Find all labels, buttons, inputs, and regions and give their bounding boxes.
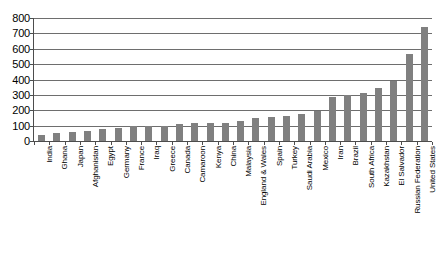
y-axis-tick-labels: 0100200300400500600700800 xyxy=(0,14,30,142)
bar[interactable] xyxy=(298,114,305,141)
x-axis-tick-label: Egypt xyxy=(106,146,115,166)
bar[interactable] xyxy=(207,123,214,141)
bar[interactable] xyxy=(115,128,122,141)
y-axis-tick-label: 500 xyxy=(0,59,30,70)
x-axis-tick-label: Canada xyxy=(183,146,192,173)
x-axis-tick-label: Ghana xyxy=(60,146,69,170)
x-axis-tick-mark xyxy=(355,142,356,145)
bars-series xyxy=(34,18,432,141)
x-axis-tick-mark xyxy=(156,142,157,145)
y-axis-tick-label: 300 xyxy=(0,89,30,100)
bar[interactable] xyxy=(406,54,413,141)
x-axis-tick-mark xyxy=(294,142,295,145)
x-axis-tick-mark xyxy=(432,142,433,145)
x-axis-tick-mark xyxy=(417,142,418,145)
bar[interactable] xyxy=(130,126,137,141)
x-axis-tick-mark xyxy=(340,142,341,145)
bar[interactable] xyxy=(99,129,106,141)
x-axis-tick-mark xyxy=(111,142,112,145)
y-axis-tick-label: 700 xyxy=(0,28,30,39)
x-axis-tick-mark xyxy=(49,142,50,145)
bar[interactable] xyxy=(222,123,229,141)
y-axis-tick-mark xyxy=(30,95,34,96)
x-axis-tick-label: Malaysia xyxy=(244,146,253,177)
x-axis-tick-mark xyxy=(279,142,280,145)
x-axis-tick-label: Kenya xyxy=(214,146,223,168)
x-axis-tick-mark xyxy=(202,142,203,145)
y-axis-tick-label: 400 xyxy=(0,74,30,85)
x-axis-tick-label: United States xyxy=(428,146,437,193)
bar[interactable] xyxy=(145,126,152,141)
x-axis-tick-labels: IndiaGhanaJapanAfghanistanEgyptGermanyFr… xyxy=(34,146,432,258)
x-axis-tick-label: Turkey xyxy=(290,146,299,170)
x-axis-tick-mark xyxy=(172,142,173,145)
y-axis-tick-label: 0 xyxy=(0,136,30,147)
bar[interactable] xyxy=(344,95,351,141)
bar[interactable] xyxy=(375,88,382,141)
x-axis-tick-label: France xyxy=(137,146,146,170)
bar[interactable] xyxy=(176,124,183,141)
x-axis-tick-label: Brazil xyxy=(351,146,360,165)
x-axis-tick-label: Kazakhstan xyxy=(382,146,391,187)
y-axis-tick-mark xyxy=(30,110,34,111)
bar[interactable] xyxy=(360,93,367,141)
x-axis-tick-label: South Africa xyxy=(367,146,376,188)
x-axis-tick-label: China xyxy=(229,146,238,166)
bar[interactable] xyxy=(421,27,428,141)
x-axis-tick-mark xyxy=(218,142,219,145)
y-axis-tick-label: 100 xyxy=(0,120,30,131)
x-axis-tick-mark xyxy=(386,142,387,145)
bar[interactable] xyxy=(237,121,244,141)
x-axis-tick-label: Iraq xyxy=(152,146,161,159)
y-axis-tick-mark xyxy=(30,18,34,19)
x-axis-tick-mark xyxy=(65,142,66,145)
x-axis-tick-label: Camaroon xyxy=(198,146,207,183)
x-axis-tick-mark xyxy=(126,142,127,145)
x-axis-tick-mark xyxy=(310,142,311,145)
x-axis-tick-mark xyxy=(401,142,402,145)
x-axis-tick-label: England & Wales xyxy=(259,146,268,206)
x-axis-tick-label: Mexico xyxy=(321,146,330,171)
x-axis-tick-mark xyxy=(371,142,372,145)
x-axis-tick-mark xyxy=(95,142,96,145)
x-axis-tick-label: Iran xyxy=(336,146,345,159)
bar[interactable] xyxy=(268,117,275,141)
x-axis-tick-mark xyxy=(141,142,142,145)
bar[interactable] xyxy=(53,133,60,141)
bar[interactable] xyxy=(84,131,91,141)
x-axis-tick-label: Spain xyxy=(275,146,284,166)
bar[interactable] xyxy=(252,118,259,141)
x-axis-tick-label: Greece xyxy=(168,146,177,172)
x-axis-tick-label: Japan xyxy=(76,146,85,167)
bar[interactable] xyxy=(314,111,321,141)
y-axis-tick-label: 600 xyxy=(0,43,30,54)
x-axis-tick-mark xyxy=(264,142,265,145)
x-axis-tick-label: Germany xyxy=(122,146,131,178)
x-axis-tick-label: Afghanistan xyxy=(91,146,100,187)
y-axis-tick-mark xyxy=(30,33,34,34)
x-axis-tick-label: India xyxy=(45,146,54,163)
y-axis-tick-mark xyxy=(30,64,34,65)
y-axis-tick-mark xyxy=(30,80,34,81)
x-axis-tick-label: Russian Federation xyxy=(413,146,422,214)
x-axis-tick-mark xyxy=(248,142,249,145)
bar[interactable] xyxy=(390,81,397,141)
bar[interactable] xyxy=(161,126,168,141)
plot-area xyxy=(34,18,432,141)
y-axis-tick-label: 200 xyxy=(0,105,30,116)
x-axis-tick-mark xyxy=(233,142,234,145)
bar[interactable] xyxy=(283,116,290,141)
x-axis-tick-mark xyxy=(80,142,81,145)
bar[interactable] xyxy=(191,123,198,141)
y-axis-tick-mark xyxy=(30,49,34,50)
bar[interactable] xyxy=(69,132,76,141)
x-axis-tick-mark xyxy=(325,142,326,145)
y-axis-tick-mark xyxy=(30,126,34,127)
y-axis-tick-label: 800 xyxy=(0,13,30,24)
x-axis-tick-mark xyxy=(34,142,35,145)
bar[interactable] xyxy=(329,97,336,141)
x-axis-tick-mark xyxy=(187,142,188,145)
x-axis-tick-label: Saudi Arabia xyxy=(305,146,314,190)
x-axis-tick-label: El Salvador xyxy=(397,146,406,186)
